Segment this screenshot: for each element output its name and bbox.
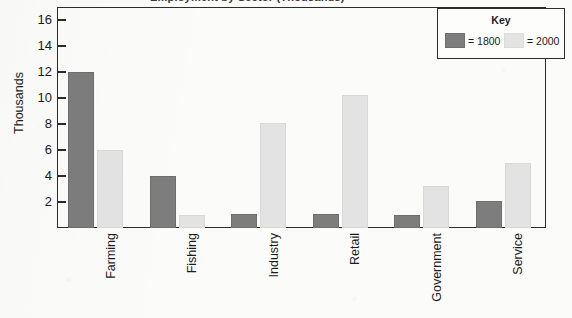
bar-farming-2000 [97,150,123,228]
bar-industry-2000 [260,123,286,228]
legend-label-1800: = 1800 [468,35,500,47]
bar-retail-1800 [313,214,339,228]
y-axis-tick-label: 4 [18,169,52,182]
bar-industry-1800 [231,214,257,228]
legend-box: Key = 1800 = 2000 [437,8,565,59]
y-axis-tick-label: 14 [18,39,52,52]
y-axis-tick [57,45,66,46]
bar-government-1800 [394,215,420,228]
y-axis-tick [57,123,66,124]
chart-title-cropped: Employment by Sector (Thousands) [0,0,572,7]
y-axis-tick [57,201,66,202]
bar-fishing-1800 [150,176,176,228]
bar-government-2000 [423,186,449,228]
bar-retail-2000 [342,95,368,228]
y-axis-line [57,7,58,228]
legend-swatch-2000 [504,33,524,48]
y-axis-tick [57,71,66,72]
bar-service-1800 [476,201,502,228]
legend-swatch-1800 [445,33,465,48]
legend-title: Key [438,14,564,26]
bar-fishing-2000 [179,215,205,228]
y-axis-title: Thousands [12,53,26,153]
x-axis-label-government: Government [430,233,444,302]
legend-entry-2000: = 2000 [504,33,559,48]
y-axis-tick-label: 16 [18,13,52,26]
y-axis-tick-label: 2 [18,195,52,208]
bar-service-2000 [505,163,531,228]
chart-title-text: Employment by Sector (Thousands) [150,0,345,3]
legend-entry-1800: = 1800 [445,33,500,48]
x-axis-label-farming: Farming [104,233,118,279]
x-axis-label-industry: Industry [267,233,281,277]
legend-label-2000: = 2000 [527,35,559,47]
y-axis-tick [57,97,66,98]
bar-farming-1800 [68,72,94,228]
x-axis-label-service: Service [511,233,525,275]
y-axis-tick [57,175,66,176]
y-axis-tick [57,149,66,150]
x-axis-label-retail: Retail [348,233,362,265]
y-axis-tick [57,19,66,20]
x-axis-label-fishing: Fishing [185,233,199,273]
